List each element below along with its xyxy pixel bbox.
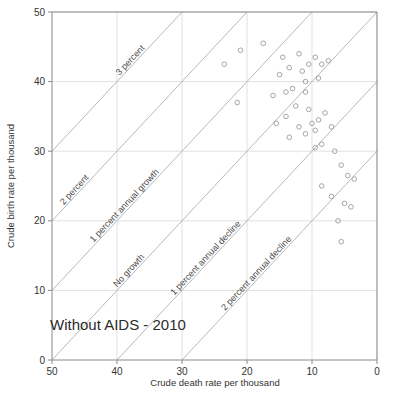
data-point-marker [316, 76, 321, 81]
data-point-marker [293, 104, 298, 109]
data-point-marker [319, 142, 324, 147]
data-point-marker [280, 55, 285, 60]
data-point-marker [303, 90, 308, 95]
data-point-marker [339, 163, 344, 168]
data-point-marker [261, 41, 266, 46]
data-point-marker [339, 239, 344, 244]
data-point-marker [297, 51, 302, 56]
y-tick-label: 0 [39, 355, 45, 366]
reference-line-label: 1 percent annual growth [88, 167, 161, 244]
data-point-marker [306, 107, 311, 112]
x-axis-title: Crude death rate per thousand [150, 377, 279, 388]
data-point-marker [300, 69, 305, 74]
data-point-marker [319, 184, 324, 189]
reference-line-labels: No growth1 percent annual growth2 percen… [58, 43, 293, 313]
data-point-marker [313, 128, 318, 133]
data-point-marker [235, 100, 240, 105]
data-point-marker [271, 93, 276, 98]
y-tick-label: 50 [34, 7, 46, 18]
y-axis-title: Crude birth rate per thousand [5, 124, 16, 248]
y-tick-label: 40 [34, 76, 46, 87]
reference-line-label: 2 percent annual decline [219, 234, 293, 313]
x-tick-label: 30 [176, 366, 188, 377]
x-tick-label: 10 [306, 366, 318, 377]
data-point-marker [316, 118, 321, 123]
data-point-marker [274, 121, 279, 126]
data-points [222, 41, 357, 244]
x-tick-label: 20 [241, 366, 253, 377]
data-point-marker [323, 111, 328, 116]
data-point-marker [290, 86, 295, 91]
reference-line-1 [52, 12, 377, 360]
data-point-marker [287, 65, 292, 70]
data-point-marker [277, 72, 282, 77]
chart-figure: 0102030405050403020100 No growth1 percen… [0, 0, 398, 405]
reference-line-label: No growth [111, 252, 146, 289]
data-point-marker [222, 62, 227, 67]
data-point-marker [306, 62, 311, 67]
y-tick-label: 20 [34, 215, 46, 226]
reference-line-label: 1 percent annual decline [168, 219, 242, 298]
reference-line-label: 3 percent [114, 43, 147, 78]
y-tick-label: 30 [34, 146, 46, 157]
data-point-marker [287, 135, 292, 140]
data-point-marker [329, 194, 334, 199]
x-tick-label: 50 [46, 366, 58, 377]
data-point-marker [313, 55, 318, 60]
data-point-marker [238, 48, 243, 53]
chart-annotation-title: Without AIDS - 2010 [50, 316, 186, 333]
x-tick-label: 40 [111, 366, 123, 377]
data-point-marker [342, 201, 347, 206]
reference-lines [52, 12, 377, 360]
data-point-marker [329, 125, 334, 130]
data-point-marker [326, 58, 331, 63]
data-point-marker [349, 205, 354, 210]
data-point-marker [284, 90, 289, 95]
data-point-marker [297, 125, 302, 130]
data-point-marker [303, 132, 308, 137]
data-point-marker [345, 173, 350, 178]
reference-line-3 [52, 12, 247, 221]
x-tick-label: 0 [374, 366, 380, 377]
reference-line-label: 2 percent [58, 172, 91, 207]
data-point-marker [352, 177, 357, 182]
data-point-marker [284, 114, 289, 119]
data-point-marker [319, 62, 324, 67]
scatter-plot: 0102030405050403020100 No growth1 percen… [0, 0, 398, 405]
y-tick-label: 10 [34, 285, 46, 296]
